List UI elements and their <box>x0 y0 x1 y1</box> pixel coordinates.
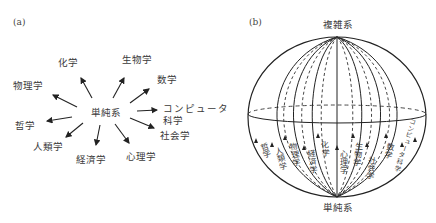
meridian-label-mathematics: 数学 <box>382 141 394 159</box>
meridian-label-computer-science: コンピュータ科学 <box>392 117 417 173</box>
meridian-label-psychology: 心理学 <box>339 150 348 174</box>
meridian-label-chemistry: 化学 <box>319 140 329 158</box>
sphere-diagram: 哲学 人類学 物理学 経済学 化学 心理学 生物学 社会学 数学 コンピュータ科… <box>0 0 436 223</box>
meridian-label-biology: 生物学 <box>352 141 363 167</box>
meridian-label-physics: 物理学 <box>287 141 300 167</box>
meridian-label-sociology: 社会学 <box>364 154 376 180</box>
